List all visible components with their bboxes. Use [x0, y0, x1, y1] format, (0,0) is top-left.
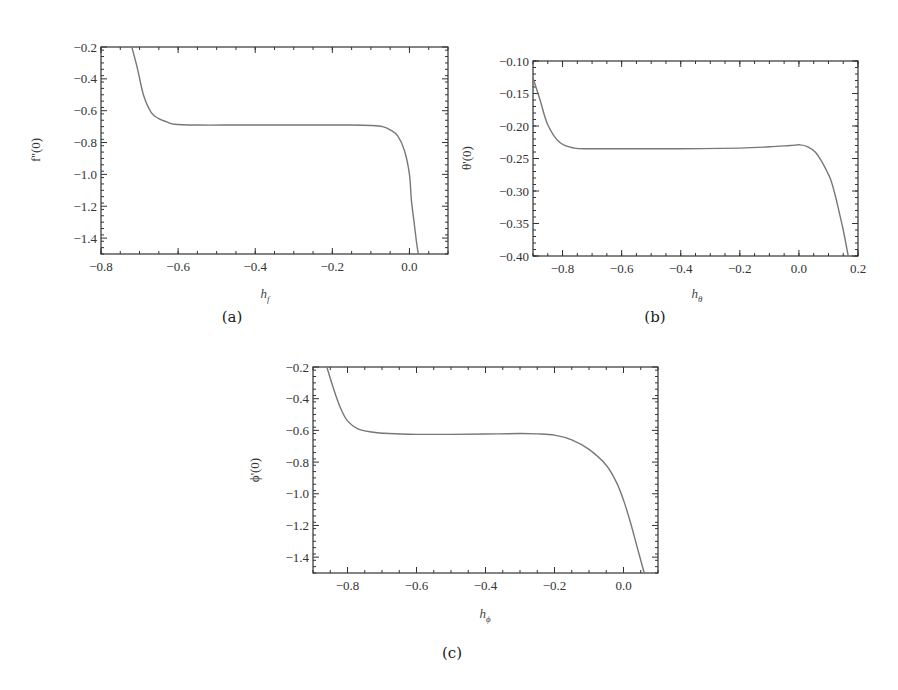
y-tick-label: −0.15 [499, 86, 529, 101]
x-tick-label: −0.6 [166, 259, 190, 274]
x-tick-label: 0.0 [615, 578, 631, 593]
y-tick-label: −0.35 [499, 216, 529, 231]
chart-panel-c: −0.8−0.6−0.4−0.20.0−0.2−0.4−0.6−0.8−1.0−… [247, 360, 658, 663]
x-tick-label: −0.6 [610, 261, 634, 276]
y-tick-label: −0.2 [73, 40, 97, 55]
y-axis-label: f''(0) [28, 138, 43, 162]
y-tick-label: −0.6 [285, 423, 309, 438]
x-tick-label: −0.6 [405, 578, 429, 593]
y-tick-label: −1.0 [285, 486, 309, 501]
y-tick-label: −0.8 [73, 135, 97, 150]
y-tick-label: −0.10 [499, 54, 529, 69]
y-tick-label: −0.4 [73, 71, 97, 86]
figure: −0.8−0.6−0.4−0.20.0−0.2−0.4−0.6−0.8−1.0−… [0, 0, 898, 690]
x-tick-label: −0.2 [321, 259, 345, 274]
x-tick-label: 0.0 [401, 259, 417, 274]
y-tick-label: −0.6 [73, 103, 97, 118]
y-tick-label: −0.2 [285, 360, 309, 375]
x-tick-label: −0.8 [551, 261, 575, 276]
x-tick-label: −0.8 [336, 578, 360, 593]
x-axis-label: hf [260, 286, 271, 304]
series-line [533, 78, 848, 256]
panel-label: (c) [442, 644, 462, 662]
y-tick-label: −0.40 [499, 249, 529, 264]
panel-label: (a) [222, 308, 243, 326]
x-tick-label: 0.0 [791, 261, 807, 276]
y-tick-label: −1.4 [285, 550, 309, 565]
y-tick-label: −1.2 [285, 518, 309, 533]
panel-label: (b) [644, 308, 665, 326]
y-tick-label: −0.25 [499, 151, 529, 166]
plot-frame [313, 367, 658, 573]
x-tick-label: 0.2 [850, 261, 866, 276]
y-tick-label: −1.4 [73, 231, 97, 246]
y-tick-label: −1.0 [73, 167, 97, 182]
y-axis-label: ϕ'(0) [247, 458, 262, 482]
x-tick-label: −0.8 [89, 259, 113, 274]
x-tick-label: −0.2 [728, 261, 752, 276]
y-axis-label: θ'(0) [459, 146, 474, 170]
series-line [132, 47, 418, 254]
y-tick-label: −0.30 [499, 184, 529, 199]
y-tick-label: −1.2 [73, 199, 97, 214]
y-tick-label: −0.20 [499, 119, 529, 134]
chart-panel-a: −0.8−0.6−0.4−0.20.0−0.2−0.4−0.6−0.8−1.0−… [28, 40, 448, 327]
y-tick-label: −0.4 [285, 391, 309, 406]
x-axis-label: hθ [692, 286, 704, 304]
x-tick-label: −0.4 [474, 578, 498, 593]
y-tick-label: −0.8 [285, 455, 309, 470]
plot-frame [101, 47, 448, 254]
x-tick-label: −0.4 [669, 261, 693, 276]
x-axis-label: hϕ [479, 606, 491, 624]
series-line [327, 367, 644, 573]
x-tick-label: −0.2 [543, 578, 567, 593]
plot-frame [533, 61, 858, 256]
chart-panel-b: −0.8−0.6−0.4−0.20.00.2−0.10−0.15−0.20−0.… [459, 54, 866, 327]
x-tick-label: −0.4 [243, 259, 267, 274]
